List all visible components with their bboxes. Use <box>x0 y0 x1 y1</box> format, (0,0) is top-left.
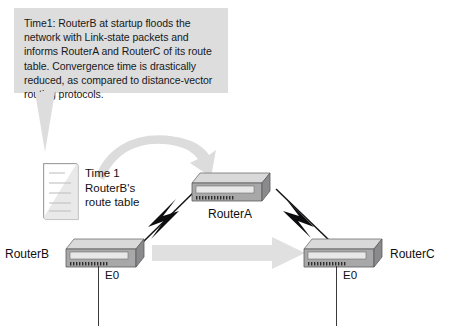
network-diagram: Time1: RouterB at startup floods the net… <box>0 0 463 336</box>
interface-line-routerC <box>336 266 337 326</box>
lightning-bolt-icon <box>283 199 314 238</box>
link-routerA-routerC <box>276 189 330 241</box>
router-icon-routerB[interactable] <box>62 236 148 272</box>
interface-label-routerB: E0 <box>105 269 119 281</box>
interface-line-routerB <box>98 266 99 326</box>
router-label-routerA: RouterA <box>208 207 252 221</box>
router-label-routerC: RouterC <box>390 247 435 261</box>
router-label-routerB: RouterB <box>5 247 49 261</box>
interface-label-routerC: E0 <box>343 269 357 281</box>
router-icon-routerC[interactable] <box>300 236 386 272</box>
links-layer <box>0 0 463 336</box>
router-icon-routerA[interactable] <box>188 170 274 206</box>
